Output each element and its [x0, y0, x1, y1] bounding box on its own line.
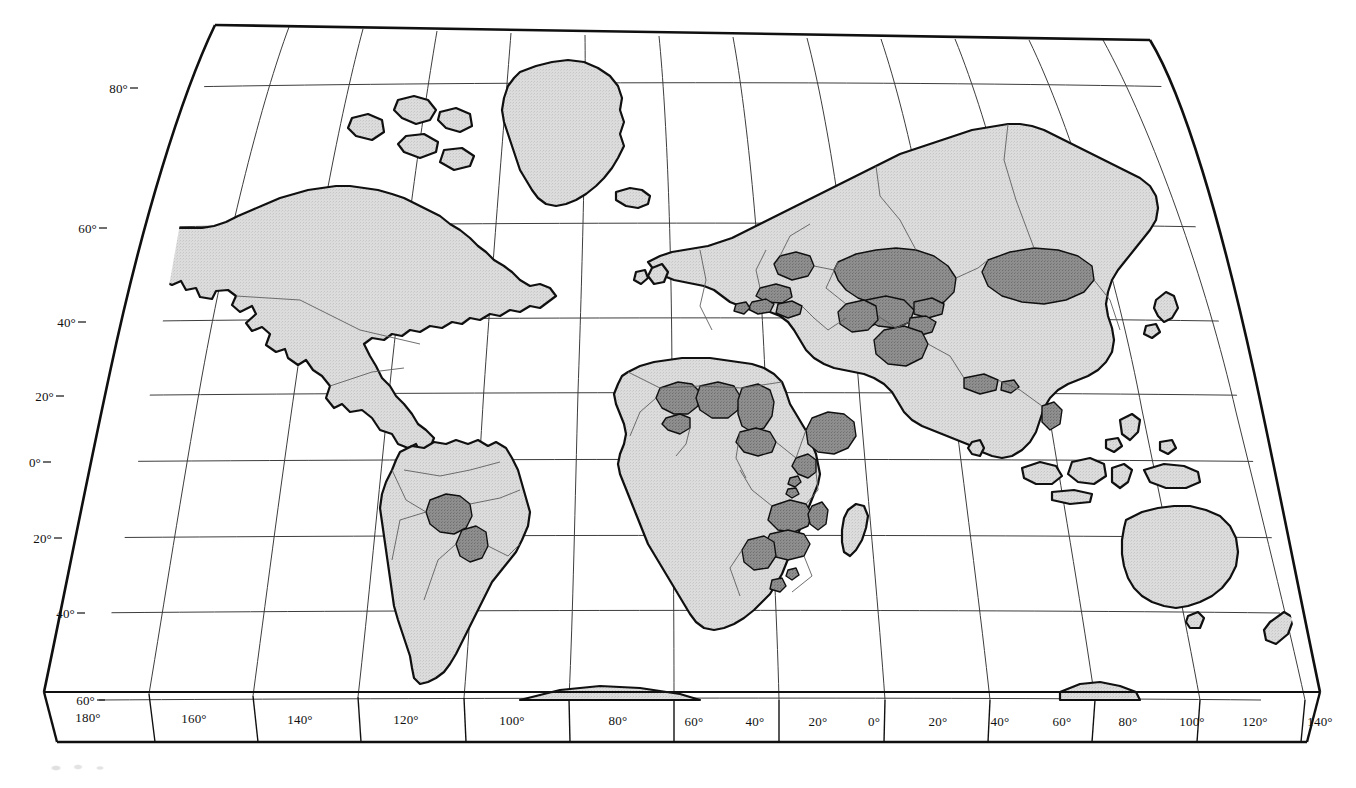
longitude-label-20w: 20° [809, 714, 828, 729]
latitude-label-80n: 80° [109, 81, 128, 96]
longitude-label-40w: 40° [746, 714, 765, 729]
latitude-label-60s: 60° [76, 693, 95, 708]
country-paraguay [456, 526, 488, 562]
landmass-sumatra [1022, 462, 1062, 484]
country-zambia [768, 500, 812, 532]
longitude-labels: 180° 160° 140° 120° 100° 80° 60° 40° 20°… [75, 710, 1333, 729]
longitude-label-100w: 100° [499, 713, 525, 728]
landmass-java [1052, 490, 1092, 504]
longitude-label-80w: 80° [609, 713, 628, 728]
longitude-label-80e: 80° [1119, 714, 1138, 729]
latitude-label-40s: 40° [56, 606, 75, 621]
longitude-label-160w: 160° [181, 711, 207, 726]
country-botswana [742, 536, 776, 570]
longitude-label-140e: 140° [1307, 714, 1333, 729]
latitude-label-0: 0° [29, 455, 41, 470]
longitude-label-60w: 60° [685, 714, 704, 729]
world-map-figure: 80° 60° 40° 20° 0° 20° 40° 60° 180° 1 [0, 0, 1356, 788]
country-ethiopia [806, 412, 856, 454]
latitude-label-20n: 20° [35, 389, 54, 404]
latitude-label-20s: 20° [33, 531, 52, 546]
longitude-label-40e: 40° [991, 714, 1010, 729]
longitude-label-180w: 180° [75, 710, 101, 725]
longitude-label-140w: 140° [287, 712, 313, 727]
longitude-label-120e: 120° [1242, 714, 1268, 729]
caption-smudge [48, 762, 118, 774]
latitude-label-60n: 60° [78, 221, 97, 236]
longitude-label-20e: 20° [929, 714, 948, 729]
world-map-svg: 80° 60° 40° 20° 0° 20° 40° 60° 180° 1 [0, 0, 1356, 788]
longitude-label-60e: 60° [1053, 714, 1072, 729]
longitude-label-100e: 100° [1179, 714, 1205, 729]
longitude-label-0: 0° [868, 714, 880, 729]
country-kyrgyzstan [914, 298, 944, 318]
latitude-label-40n: 40° [57, 315, 76, 330]
longitude-label-120w: 120° [393, 712, 419, 727]
